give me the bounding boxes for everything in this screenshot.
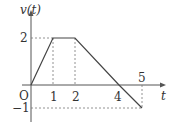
x-tick-2: 2 — [72, 90, 80, 104]
x-tick-4: 4 — [114, 90, 122, 104]
velocity-line — [31, 38, 142, 108]
y-tick-2: 2 — [20, 31, 28, 45]
y-tick-neg1: −1 — [12, 101, 30, 115]
x-tick-5: 5 — [138, 71, 146, 85]
x-axis-label: t — [161, 89, 166, 103]
y-axis-label: v(t) — [20, 3, 41, 17]
x-axis-arrow-icon — [160, 83, 166, 88]
x-tick-1: 1 — [50, 90, 58, 104]
velocity-time-graph: v(t) t O 2 −1 1 2 4 5 — [0, 0, 172, 129]
